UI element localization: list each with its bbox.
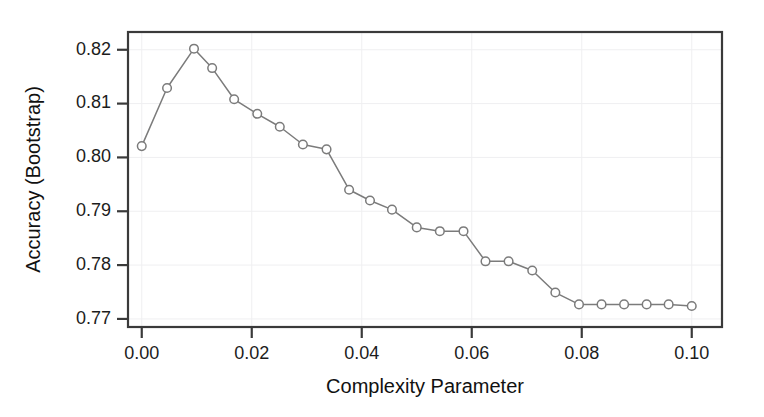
data-point <box>366 196 375 205</box>
x-axis-ticks <box>142 327 692 338</box>
y-tick-label: 0.78 <box>76 254 111 274</box>
data-point <box>388 205 397 214</box>
data-point <box>687 302 696 311</box>
data-point <box>322 145 331 154</box>
x-tick-label: 0.00 <box>124 343 159 363</box>
x-tick-label: 0.10 <box>674 343 709 363</box>
data-point <box>230 95 239 104</box>
x-tick-label: 0.02 <box>234 343 269 363</box>
accuracy-data-points <box>137 44 696 310</box>
y-axis-ticks <box>117 50 128 319</box>
y-tick-label: 0.81 <box>76 92 111 112</box>
data-point <box>642 300 651 309</box>
data-point <box>597 300 606 309</box>
x-axis-tick-labels: 0.000.020.040.060.080.10 <box>124 343 709 363</box>
data-point <box>664 300 673 309</box>
chart-canvas: 0.000.020.040.060.080.10 0.770.780.790.8… <box>0 0 764 417</box>
data-point <box>575 300 584 309</box>
data-point <box>208 64 217 73</box>
y-tick-label: 0.80 <box>76 146 111 166</box>
x-tick-label: 0.08 <box>564 343 599 363</box>
data-point <box>504 257 513 266</box>
y-axis-title: Accuracy (Bootstrap) <box>22 86 44 273</box>
accuracy-vs-complexity-chart: 0.000.020.040.060.080.10 0.770.780.790.8… <box>0 0 764 417</box>
x-tick-label: 0.04 <box>344 343 379 363</box>
data-point <box>481 257 490 266</box>
y-tick-label: 0.82 <box>76 39 111 59</box>
accuracy-line <box>142 49 692 306</box>
data-point <box>412 223 421 232</box>
data-point <box>137 142 146 151</box>
data-point <box>253 110 262 119</box>
data-point <box>551 288 560 297</box>
data-point <box>276 122 285 131</box>
data-point <box>459 227 468 236</box>
x-tick-label: 0.06 <box>454 343 489 363</box>
x-axis-title: Complexity Parameter <box>326 375 524 397</box>
y-axis-tick-labels: 0.770.780.790.800.810.82 <box>76 39 111 328</box>
data-point <box>299 140 308 149</box>
data-point <box>163 84 172 93</box>
y-tick-label: 0.79 <box>76 200 111 220</box>
data-point <box>345 185 354 194</box>
data-point <box>190 44 199 53</box>
y-tick-label: 0.77 <box>76 308 111 328</box>
data-point <box>436 227 445 236</box>
data-point <box>528 266 537 275</box>
data-point <box>620 300 629 309</box>
